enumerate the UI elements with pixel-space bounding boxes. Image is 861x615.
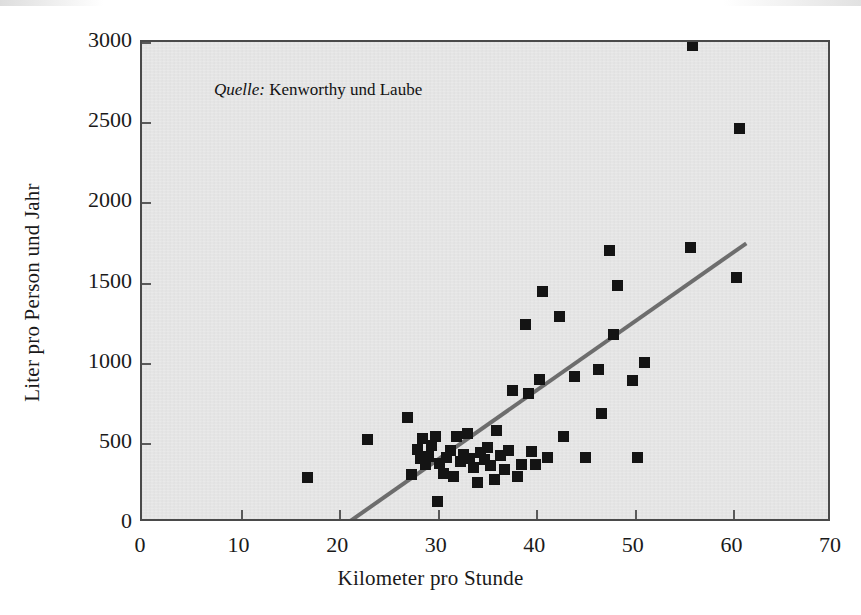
data-point <box>402 412 413 423</box>
data-point <box>512 471 523 482</box>
y-axis-tick <box>142 363 151 365</box>
data-point <box>423 451 434 462</box>
data-point <box>685 242 696 253</box>
data-point <box>516 459 527 470</box>
x-axis-tick-label: 10 <box>228 534 250 556</box>
data-point <box>432 496 443 507</box>
data-point <box>485 460 496 471</box>
data-point <box>580 452 591 463</box>
data-point <box>632 452 643 463</box>
data-point <box>627 375 638 386</box>
x-axis-tick-label: 50 <box>622 534 644 556</box>
source-annotation-text: Kenworthy und Laube <box>265 80 422 99</box>
data-point <box>430 431 441 442</box>
data-point <box>451 431 462 442</box>
plot-area: Quelle: Kenworthy und Laube <box>140 40 830 521</box>
x-axis-tick-label: 30 <box>425 534 447 556</box>
y-axis-tick <box>142 202 151 204</box>
y-axis-tick <box>142 42 151 44</box>
data-point <box>537 286 548 297</box>
data-point <box>406 469 417 480</box>
data-point <box>468 462 479 473</box>
data-point <box>503 445 514 456</box>
data-point <box>608 329 619 340</box>
data-point <box>472 477 483 488</box>
source-annotation: Quelle: Kenworthy und Laube <box>214 80 422 100</box>
data-point <box>362 434 373 445</box>
x-axis-tick <box>536 510 538 519</box>
data-point <box>569 371 580 382</box>
x-axis-tick-label: 0 <box>135 534 146 556</box>
data-point <box>734 123 745 134</box>
x-axis-tick-label: 20 <box>326 534 348 556</box>
data-point <box>604 245 615 256</box>
y-axis-tick <box>142 283 151 285</box>
data-point <box>302 472 313 483</box>
x-axis-tick-label: 70 <box>819 534 841 556</box>
data-point <box>612 280 623 291</box>
x-axis-tick <box>339 510 341 519</box>
data-point <box>482 442 493 453</box>
data-point <box>526 446 537 457</box>
y-axis-tick <box>142 443 151 445</box>
data-point <box>499 464 510 475</box>
x-axis-tick-label: 40 <box>523 534 545 556</box>
data-point <box>593 364 604 375</box>
source-annotation-prefix: Quelle: <box>214 80 265 99</box>
data-point <box>639 357 650 368</box>
trend-line <box>344 242 747 521</box>
data-point <box>491 425 502 436</box>
data-point <box>520 319 531 330</box>
data-point <box>534 374 545 385</box>
data-point <box>462 428 473 439</box>
data-point <box>554 311 565 322</box>
y-axis-title: Liter pro Person und Jahr <box>20 83 45 503</box>
x-axis-tick <box>733 510 735 519</box>
data-point <box>523 388 534 399</box>
data-point <box>448 471 459 482</box>
data-point <box>687 40 698 51</box>
data-point <box>731 272 742 283</box>
x-axis-tick-label: 60 <box>720 534 742 556</box>
y-axis-tick <box>142 122 151 124</box>
figure-root: 050010001500200025003000 010203040506070… <box>0 0 861 615</box>
data-point <box>542 452 553 463</box>
data-point <box>530 459 541 470</box>
data-point <box>445 445 456 456</box>
data-point <box>507 385 518 396</box>
x-axis-tick <box>635 510 637 519</box>
x-axis-title: Kilometer pro Stunde <box>0 566 861 591</box>
data-point <box>558 431 569 442</box>
data-point <box>489 474 500 485</box>
x-axis-tick <box>241 510 243 519</box>
data-point <box>596 408 607 419</box>
x-axis-tick <box>438 510 440 519</box>
